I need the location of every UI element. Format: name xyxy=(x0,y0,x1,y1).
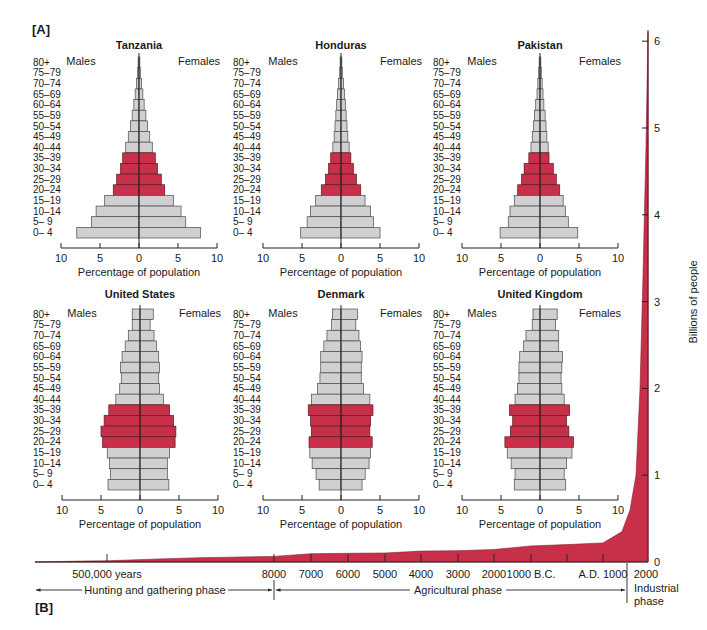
bar-female xyxy=(540,217,568,228)
x-tick-label: 0 xyxy=(338,252,344,264)
age-group-label: 45–49 xyxy=(433,131,461,142)
bar-female xyxy=(540,352,563,363)
age-group-label: 80+ xyxy=(233,57,250,68)
age-group-label: 35–39 xyxy=(233,152,261,163)
bar-female xyxy=(540,384,562,395)
age-group-label: 10–14 xyxy=(33,206,61,217)
panel-b-label: [B] xyxy=(35,600,53,615)
bar-female xyxy=(140,458,167,469)
bar-female xyxy=(341,227,380,238)
bar-male xyxy=(308,405,341,416)
bar-male xyxy=(301,227,341,238)
x-axis-label: Percentage of population xyxy=(479,266,601,278)
phase-label-industrial: Industrialphase xyxy=(634,582,679,607)
bar-female xyxy=(540,309,557,320)
bar-male xyxy=(510,206,540,217)
bar-male xyxy=(128,330,140,341)
bar-male xyxy=(532,132,540,143)
bar-male xyxy=(104,415,140,426)
x-tick-label: 5 xyxy=(498,252,504,264)
age-group-label: 10–14 xyxy=(433,206,461,217)
bar-female xyxy=(341,153,351,164)
phase-label-agricultural: Agricultural phase xyxy=(414,584,502,596)
age-group-label: 35–39 xyxy=(433,404,461,415)
bar-male xyxy=(522,174,540,185)
x-axis-label: Percentage of population xyxy=(280,518,402,530)
bar-male xyxy=(534,121,540,132)
bar-male xyxy=(524,163,540,174)
bar-female xyxy=(341,447,371,458)
bar-female xyxy=(540,469,564,480)
bar-male xyxy=(510,405,540,416)
bar-female xyxy=(540,121,546,132)
x-tick-label: 5 xyxy=(576,252,582,264)
age-group-label: 10–14 xyxy=(33,458,61,469)
age-group-label: 35–39 xyxy=(33,404,61,415)
bar-female xyxy=(540,206,565,217)
age-group-label: 15–19 xyxy=(233,195,261,206)
bar-male xyxy=(130,121,139,132)
bar-male xyxy=(120,384,140,395)
x-tick-label: 10 xyxy=(413,252,425,264)
bar-female xyxy=(140,341,156,352)
bar-female xyxy=(139,153,155,164)
age-group-label: 5– 9 xyxy=(433,468,453,479)
males-label: Males xyxy=(66,55,96,67)
age-group-label: 55–59 xyxy=(433,362,461,373)
bar-male xyxy=(110,469,140,480)
bar-female xyxy=(341,174,356,185)
age-group-label: 35–39 xyxy=(433,152,461,163)
bar-male xyxy=(103,437,140,448)
bar-female xyxy=(341,426,370,437)
bar-male xyxy=(514,479,540,490)
bar-female xyxy=(140,384,160,395)
age-group-label: 60–64 xyxy=(33,351,61,362)
bar-male xyxy=(513,415,540,426)
bar-male xyxy=(520,352,540,363)
bar-female xyxy=(540,330,559,341)
age-group-label: 0– 4 xyxy=(33,479,53,490)
age-group-label: 30–34 xyxy=(33,163,61,174)
age-group-label: 20–24 xyxy=(433,436,461,447)
bar-female xyxy=(139,217,186,228)
x-tick-label: A.D. 1000 xyxy=(579,568,628,580)
bar-female xyxy=(140,437,175,448)
age-group-label: 20–24 xyxy=(233,436,261,447)
age-group-label: 5– 9 xyxy=(233,216,253,227)
bar-male xyxy=(327,330,341,341)
population-figure: [A] [B] 0123456Billions of people500,000… xyxy=(0,0,707,630)
age-group-label: 25–29 xyxy=(233,174,261,185)
bar-male xyxy=(510,426,540,437)
bar-male xyxy=(518,185,540,196)
bar-female xyxy=(140,362,160,373)
bar-male xyxy=(123,153,139,164)
bar-female xyxy=(540,405,570,416)
bar-male xyxy=(91,217,139,228)
bar-female xyxy=(540,426,569,437)
age-group-label: 25–29 xyxy=(33,174,61,185)
bar-female xyxy=(139,174,161,185)
pyramid-title: Honduras xyxy=(315,39,366,51)
bar-female xyxy=(540,227,578,238)
bar-male xyxy=(500,227,540,238)
age-group-label: 50–54 xyxy=(33,373,61,384)
bar-female xyxy=(540,195,563,206)
bar-male xyxy=(311,415,341,426)
x-axis-label: Percentage of population xyxy=(79,518,201,530)
x-tick-label: 5 xyxy=(97,252,103,264)
bar-male xyxy=(116,394,140,405)
age-group-label: 50–54 xyxy=(233,373,261,384)
bar-male xyxy=(529,153,540,164)
age-group-label: 20–24 xyxy=(233,184,261,195)
bar-male xyxy=(505,437,540,448)
age-group-label: 5– 9 xyxy=(233,468,253,479)
x-tick-label: 5 xyxy=(576,504,582,516)
age-group-label: 50–54 xyxy=(433,373,461,384)
bar-female xyxy=(341,394,370,405)
y-tick-label: 2 xyxy=(654,382,660,394)
bar-male xyxy=(332,320,341,331)
bar-male xyxy=(321,352,341,363)
bar-female xyxy=(341,89,344,100)
age-group-label: 15–19 xyxy=(33,447,61,458)
males-label: Males xyxy=(268,55,298,67)
